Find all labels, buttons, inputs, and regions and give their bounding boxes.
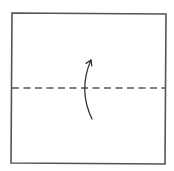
background xyxy=(0,0,174,171)
origami-fold-diagram xyxy=(0,0,174,171)
